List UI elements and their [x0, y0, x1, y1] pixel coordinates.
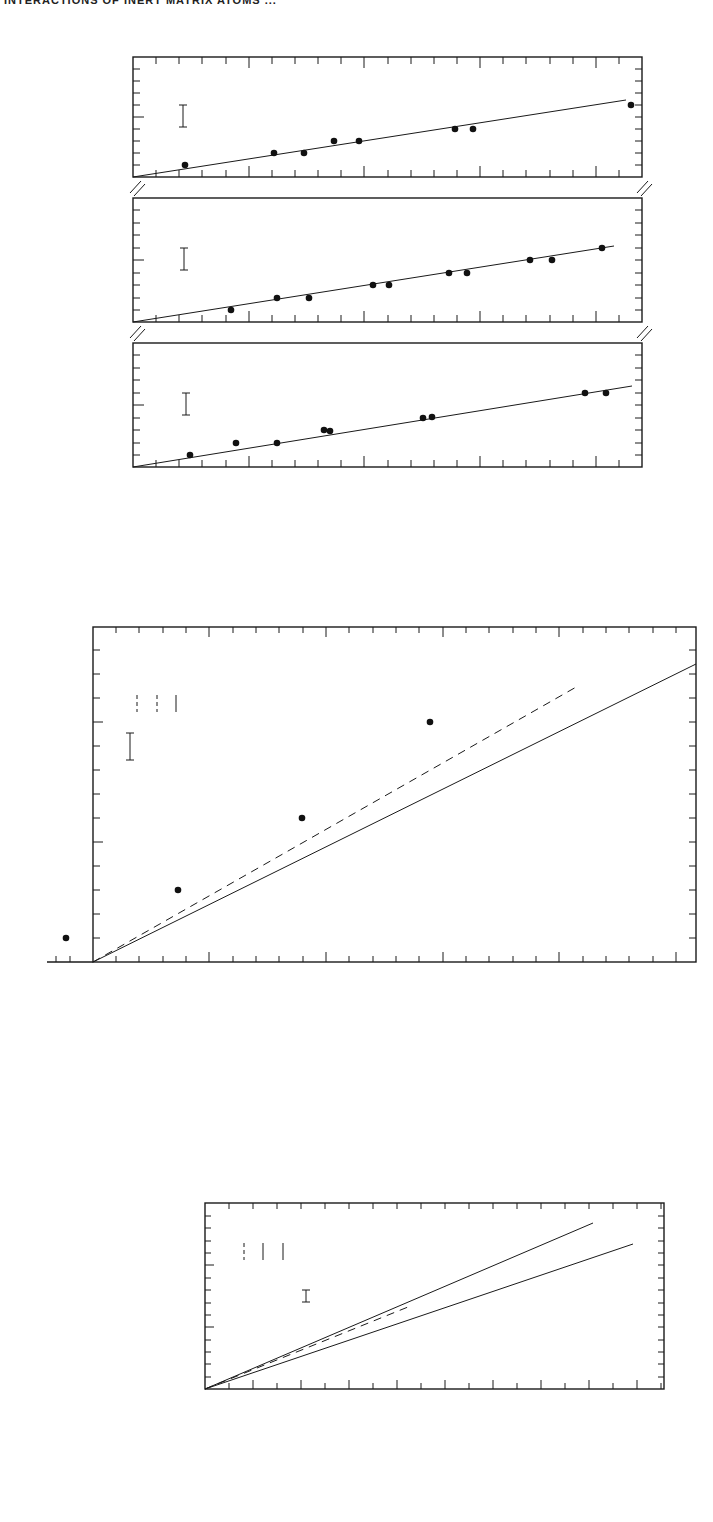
chart-k12: [130, 57, 652, 467]
panel-xe-frame: [133, 57, 642, 177]
k22-frame: [93, 627, 696, 962]
panel-kr-frame: [133, 198, 642, 322]
xe-fit-line: [93, 664, 696, 962]
k11-x-ticks: [229, 1203, 661, 1389]
k12-markers: [182, 102, 635, 459]
figure-canvas: [0, 0, 713, 1522]
xe-fit-line: [133, 100, 626, 177]
ar-fit-line: [133, 386, 632, 467]
error-bar-icon: [302, 1290, 310, 1302]
ar-fit-line: [205, 1307, 408, 1389]
error-bar-icon: [126, 733, 134, 760]
k22-markers: [63, 719, 434, 942]
error-bar-icons: [179, 105, 190, 415]
kr-fit-line: [205, 1244, 633, 1389]
k22-y-ticks: [93, 650, 696, 938]
k11-y-ticks: [205, 1216, 664, 1377]
axis-break-marks: [130, 181, 652, 341]
k22-x-ticks: [56, 627, 676, 962]
chart-k11: [205, 1203, 664, 1389]
panel-ar-frame: [133, 343, 642, 467]
chart-k22: [47, 627, 696, 962]
ar-kr-fit-line: [93, 686, 578, 962]
kr-markers: [63, 719, 434, 942]
